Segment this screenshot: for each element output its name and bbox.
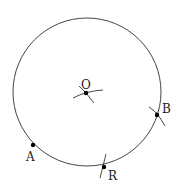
label-r: R: [108, 169, 118, 183]
label-b: B: [162, 102, 171, 116]
label-a: A: [25, 150, 35, 164]
construction-diagram: O A R B: [0, 0, 183, 190]
point-r: [102, 165, 106, 169]
point-b: [155, 113, 159, 117]
point-a: [31, 143, 35, 147]
label-o: O: [81, 78, 91, 92]
